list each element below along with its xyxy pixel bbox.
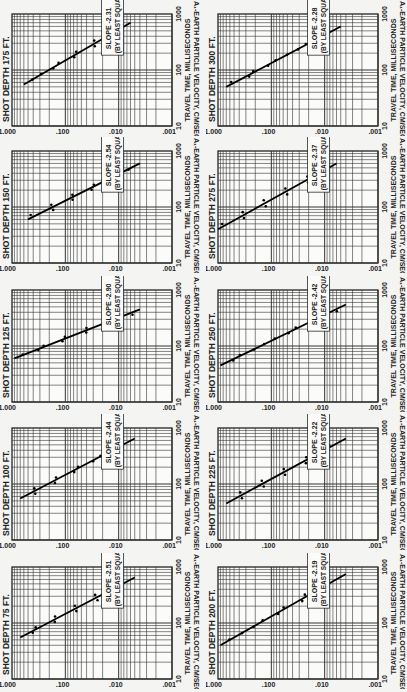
time-axis-label: TRAVEL TIME, MILLISECONDS (184, 571, 192, 674)
slope-note: (BY LEAST SQUARES) (114, 276, 122, 329)
time-tick: 100 (381, 201, 388, 213)
velocity-axis-label: A₁-EARTH PARTICLE VELOCITY, CM/SEC (192, 415, 200, 550)
velocity-tick: 1.000 (206, 542, 222, 549)
velocity-tick: 1.000 (206, 128, 222, 135)
velocity-tick: .010 (315, 542, 329, 549)
time-tick: 100 (381, 478, 388, 490)
time-axis-label: TRAVEL TIME, MILLISECONDS (390, 18, 398, 121)
slope-note: (BY LEAST SQUARES) (320, 276, 328, 329)
chart-title: SHOT DEPTH 200 FT. (207, 590, 217, 676)
velocity-tick: 1.000 (0, 265, 16, 272)
chart-title: SHOT DEPTH 250 FT. (207, 313, 217, 399)
slope-label: SLOPE -2.54 (105, 144, 112, 186)
slope-note: (BY LEAST SQUARES) (114, 137, 122, 190)
slope-note: (BY LEAST SQUARES) (320, 553, 328, 606)
velocity-axis-label: A₁-EARTH PARTICLE VELOCITY, CM/SEC (192, 138, 200, 273)
velocity-tick: .100 (56, 265, 70, 272)
chart-panel: SHOT DEPTH 150 FT.SLOPE -2.54(BY LEAST S… (0, 137, 200, 273)
velocity-tick: .100 (56, 128, 70, 135)
velocity-tick: .010 (315, 681, 329, 688)
time-tick: 10 (175, 259, 182, 267)
velocity-tick: 1.000 (206, 404, 222, 411)
time-axis-label: TRAVEL TIME, MILLISECONDS (390, 571, 398, 674)
velocity-tick: 1.000 (0, 542, 16, 549)
time-tick: 1000 (381, 6, 388, 22)
velocity-tick: .100 (262, 128, 276, 135)
time-tick: 10 (381, 536, 388, 544)
chart-panel: SHOT DEPTH 125 FT.SLOPE -2.90(BY LEAST S… (0, 276, 200, 412)
chart-title: SHOT DEPTH 150 FT. (1, 174, 11, 260)
velocity-tick: .100 (262, 542, 276, 549)
time-tick: 10 (175, 122, 182, 130)
slope-label: SLOPE -2.22 (311, 421, 318, 463)
velocity-axis-label: A₁-EARTH PARTICLE VELOCITY, CM/SEC (398, 1, 406, 136)
velocity-tick: .010 (109, 404, 123, 411)
slope-note: (BY LEAST SQUARES) (320, 414, 328, 467)
chart-title: SHOT DEPTH 175 FT. (1, 37, 11, 123)
time-tick: 100 (381, 617, 388, 629)
time-tick: 1000 (381, 282, 388, 298)
time-tick: 100 (175, 617, 182, 629)
velocity-tick: .100 (262, 404, 276, 411)
velocity-axis-label: A₁-EARTH PARTICLE VELOCITY, CM/SEC (192, 1, 200, 136)
velocity-axis-label: A₁-EARTH PARTICLE VELOCITY, CM/SEC (398, 415, 406, 550)
velocity-tick: .100 (262, 265, 276, 272)
velocity-tick: 1.000 (0, 404, 16, 411)
chart-title: SHOT DEPTH 125 FT. (1, 313, 11, 399)
velocity-tick: .100 (262, 681, 276, 688)
chart-panel: SHOT DEPTH 225 FT.SLOPE -2.22(BY LEAST S… (206, 414, 406, 550)
slope-label: SLOPE -2.42 (311, 283, 318, 325)
velocity-tick: .010 (315, 404, 329, 411)
velocity-tick: .010 (109, 681, 123, 688)
time-tick: 100 (381, 340, 388, 352)
velocity-tick: 1.000 (0, 681, 16, 688)
velocity-tick: 1.000 (206, 681, 222, 688)
time-tick: 10 (381, 122, 388, 130)
velocity-tick: .010 (109, 128, 123, 135)
velocity-axis-label: A₁-EARTH PARTICLE VELOCITY, CM/SEC (398, 277, 406, 412)
time-axis-label: TRAVEL TIME, MILLISECONDS (390, 155, 398, 258)
velocity-tick: .100 (56, 681, 70, 688)
velocity-axis-label: A₁-EARTH PARTICLE VELOCITY, CM/SEC (398, 554, 406, 689)
time-tick: 100 (175, 64, 182, 76)
time-tick: 1000 (381, 559, 388, 575)
time-tick: 100 (175, 340, 182, 352)
velocity-tick: .100 (56, 542, 70, 549)
time-tick: 10 (175, 536, 182, 544)
chart-title: SHOT DEPTH 275 FT. (207, 174, 217, 260)
time-tick: 10 (175, 398, 182, 406)
slope-label: SLOPE -2.19 (311, 560, 318, 602)
chart-title: SHOT DEPTH 100 FT. (1, 451, 11, 537)
slope-note: (BY LEAST SQUARES) (114, 0, 122, 53)
time-tick: 1000 (381, 143, 388, 159)
velocity-tick: 1.000 (0, 128, 16, 135)
chart-panel: SHOT DEPTH 100 FT.SLOPE -2.44(BY LEAST S… (0, 414, 200, 550)
time-tick: 100 (175, 201, 182, 213)
slope-label: SLOPE -2.37 (311, 144, 318, 186)
velocity-tick: .010 (315, 128, 329, 135)
chart-title: SHOT DEPTH 75 FT. (1, 594, 11, 675)
time-tick: 1000 (175, 559, 182, 575)
time-axis-label: TRAVEL TIME, MILLISECONDS (184, 18, 192, 121)
chart-title: SHOT DEPTH 300 FT. (207, 37, 217, 123)
time-tick: 1000 (175, 6, 182, 22)
chart-panel: SHOT DEPTH 75 FT.SLOPE -2.51(BY LEAST SQ… (0, 553, 200, 689)
time-tick: 10 (381, 398, 388, 406)
time-tick: 100 (381, 64, 388, 76)
chart-title: SHOT DEPTH 225 FT. (207, 451, 217, 537)
velocity-tick: .010 (109, 265, 123, 272)
chart-panel: SHOT DEPTH 250 FT.SLOPE -2.42(BY LEAST S… (206, 276, 406, 412)
velocity-tick: .010 (315, 265, 329, 272)
time-tick: 100 (175, 478, 182, 490)
velocity-tick: 1.000 (206, 265, 222, 272)
slope-note: (BY LEAST SQUARES) (114, 553, 122, 606)
time-tick: 10 (381, 675, 388, 683)
chart-panel: SHOT DEPTH 300 FT.SLOPE -2.28(BY LEAST S… (206, 0, 406, 136)
chart-panel: SHOT DEPTH 175 FT.SLOPE -2.31(BY LEAST S… (0, 0, 200, 136)
time-axis-label: TRAVEL TIME, MILLISECONDS (390, 432, 398, 535)
slope-label: SLOPE -2.51 (105, 560, 112, 602)
slope-label: SLOPE -2.90 (105, 283, 112, 325)
slope-label: SLOPE -2.31 (105, 7, 112, 49)
time-axis-label: TRAVEL TIME, MILLISECONDS (184, 432, 192, 535)
slope-note: (BY LEAST SQUARES) (320, 0, 328, 53)
